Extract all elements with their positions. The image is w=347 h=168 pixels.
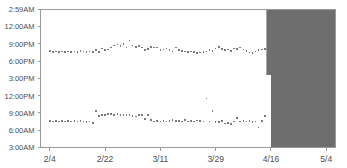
- data-point: [239, 47, 241, 49]
- data-point: [193, 121, 195, 123]
- data-point: [64, 121, 66, 123]
- data-point: [77, 121, 79, 123]
- data-point: [117, 44, 119, 46]
- data-point: [138, 114, 140, 116]
- data-point: [203, 121, 205, 123]
- data-point: [199, 120, 201, 122]
- sleep-scatter-plot: 3:00AM6:00AM9:00AM12:00PM3:00PM6:00PM9:0…: [0, 0, 347, 168]
- data-point: [215, 121, 217, 123]
- data-point: [86, 121, 88, 123]
- data-point: [107, 113, 109, 115]
- data-point: [104, 114, 106, 116]
- data-point: [67, 120, 69, 122]
- data-point: [74, 51, 76, 53]
- data-point: [107, 49, 109, 51]
- data-point: [172, 51, 174, 53]
- y-tick-label: 6:00PM: [9, 57, 35, 66]
- data-point: [120, 114, 122, 116]
- data-point: [129, 114, 131, 116]
- data-point: [169, 49, 171, 51]
- data-point: [135, 46, 137, 48]
- data-point: [104, 49, 106, 51]
- data-point: [150, 46, 152, 48]
- data-point: [258, 49, 260, 51]
- data-point: [83, 51, 85, 53]
- data-point: [153, 47, 155, 49]
- data-point: [230, 50, 232, 52]
- data-point: [132, 115, 134, 117]
- data-point: [218, 121, 220, 123]
- data-point: [83, 121, 85, 123]
- data-point: [243, 49, 245, 51]
- data-point: [126, 114, 128, 116]
- y-tick-label: 9:00PM: [9, 40, 35, 49]
- data-point: [206, 98, 208, 100]
- data-point: [181, 121, 183, 123]
- data-point: [212, 50, 214, 52]
- data-point: [160, 49, 162, 51]
- data-point: [224, 49, 226, 51]
- data-point: [243, 120, 245, 122]
- data-point: [224, 123, 226, 125]
- data-point: [74, 120, 76, 122]
- data-point: [61, 120, 63, 122]
- data-point: [138, 45, 140, 47]
- data-point: [227, 122, 229, 124]
- data-point: [236, 48, 238, 50]
- data-point: [58, 121, 60, 123]
- data-point: [206, 51, 208, 53]
- y-tick-label: 12:00AM: [4, 22, 34, 31]
- x-tick-label: 3/11: [152, 154, 168, 164]
- data-point: [55, 51, 57, 53]
- data-point: [120, 45, 122, 47]
- data-point: [52, 51, 54, 53]
- y-tick-label: 3:00AM: [9, 143, 35, 152]
- data-point: [221, 48, 223, 50]
- data-point: [255, 51, 257, 53]
- shaded-no-data-region: [266, 10, 335, 148]
- data-point: [246, 121, 248, 123]
- data-point: [178, 120, 180, 122]
- y-tick-label: 12:00PM: [4, 92, 34, 101]
- data-point: [123, 43, 125, 45]
- data-point: [215, 48, 217, 50]
- data-point: [233, 48, 235, 50]
- data-point: [190, 51, 192, 53]
- data-point: [166, 48, 168, 50]
- data-point: [80, 120, 82, 122]
- data-point: [70, 121, 72, 123]
- data-point: [89, 51, 91, 53]
- data-point: [123, 114, 125, 116]
- data-point: [147, 114, 149, 116]
- y-tick-label: 9:00AM: [9, 109, 35, 118]
- data-point: [193, 51, 195, 53]
- data-point: [89, 121, 91, 123]
- data-point: [92, 122, 94, 124]
- data-point: [135, 116, 137, 118]
- data-point: [175, 47, 177, 49]
- data-point: [249, 120, 251, 122]
- data-point: [261, 120, 263, 122]
- data-point: [52, 121, 54, 123]
- data-point: [258, 127, 260, 129]
- data-point: [175, 120, 177, 122]
- x-tick-label: 2/22: [97, 154, 114, 164]
- data-point: [110, 113, 112, 115]
- data-point: [196, 52, 198, 54]
- data-point: [246, 50, 248, 52]
- data-point: [218, 46, 220, 48]
- y-tick-label: 2:59AM: [9, 5, 35, 14]
- x-tick-label: 4/16: [263, 154, 280, 164]
- data-point: [227, 49, 229, 51]
- data-point: [163, 120, 165, 122]
- x-tick-label: 5/4: [320, 154, 332, 164]
- data-point: [153, 121, 155, 123]
- data-point: [264, 115, 266, 117]
- data-point: [255, 121, 257, 123]
- series-wake-time: [49, 98, 266, 128]
- data-point: [172, 119, 174, 121]
- data-point: [49, 120, 51, 122]
- data-point: [209, 121, 211, 123]
- data-point: [187, 121, 189, 123]
- data-point: [58, 51, 60, 53]
